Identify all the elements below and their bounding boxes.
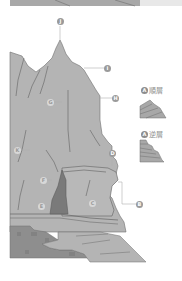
callout-j: J <box>57 18 64 25</box>
callout-b: B <box>136 201 143 208</box>
callout-i: I <box>104 65 111 72</box>
inset-badge: A <box>141 131 148 138</box>
callout-c: C <box>89 200 96 207</box>
inset-label-dip: A 順層 <box>141 85 163 95</box>
inset-dip-slope <box>140 100 166 118</box>
top-rock-band <box>10 0 160 6</box>
callout-d: D <box>109 150 116 157</box>
inset-label-antidip: A 逆層 <box>141 129 163 139</box>
cliff-illustration <box>0 0 182 281</box>
callout-k: K <box>14 147 21 154</box>
inset-antidip-slope <box>140 140 164 162</box>
cliff-diagram: J I H G K F E C D B A 順層 A 逆層 <box>0 0 182 281</box>
callout-e: E <box>38 203 45 210</box>
inset-text: 逆層 <box>149 129 163 139</box>
callout-h: H <box>112 95 119 102</box>
inset-text: 順層 <box>149 85 163 95</box>
inset-badge: A <box>141 87 148 94</box>
callout-f: F <box>40 177 47 184</box>
callout-g: G <box>47 99 54 106</box>
overhang-block <box>62 166 118 216</box>
